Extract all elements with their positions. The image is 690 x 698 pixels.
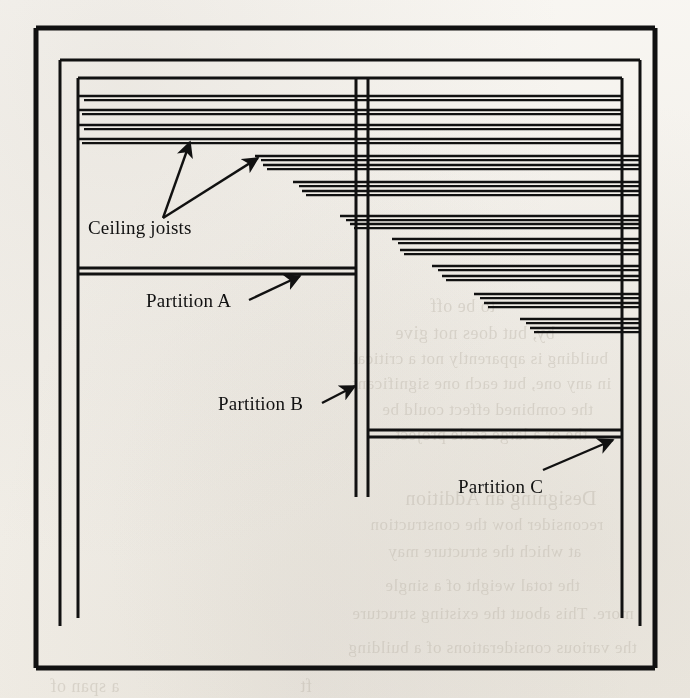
ceiling-joist [78,125,622,129]
ceiling-joist [263,165,640,169]
leader-arrow-partition-a [249,276,300,300]
label-ceiling-joists: Ceiling joists [88,217,192,238]
ceiling-joist [78,96,622,100]
ceiling-joist [293,182,640,186]
partitions-group [78,78,622,497]
ceiling-joist [302,191,640,195]
ceiling-joist [255,156,640,160]
partition-c [368,430,622,437]
label-partition-c: Partition C [458,476,543,497]
ceiling-joist [78,139,622,143]
leader-arrow-ceiling-joists [163,142,190,218]
label-partition-b: Partition B [218,393,303,414]
inner-wall [78,78,622,618]
ceiling-joist [350,224,640,228]
ceiling-joist [400,250,640,254]
scanned-page: to be offby, but does not givebuilding i… [0,0,690,698]
ceiling-joist [484,303,640,307]
ceiling-joist [340,216,640,220]
ceiling-joist [474,294,640,298]
ceiling-joist [78,110,622,114]
ceiling-joist [392,239,640,243]
partition-b [356,78,368,497]
ceiling-joist [432,266,640,270]
floor-plan-figure: Ceiling joists Partition A Partition B P… [0,0,690,698]
middle-wall [60,60,640,626]
label-partition-a: Partition A [146,290,231,311]
partition-a [78,268,356,274]
leader-arrow-partition-c [543,440,613,470]
leader-arrow-partition-b [322,386,355,403]
leader-arrow-ceiling-joists [163,158,258,218]
ceiling-joist [442,276,640,280]
